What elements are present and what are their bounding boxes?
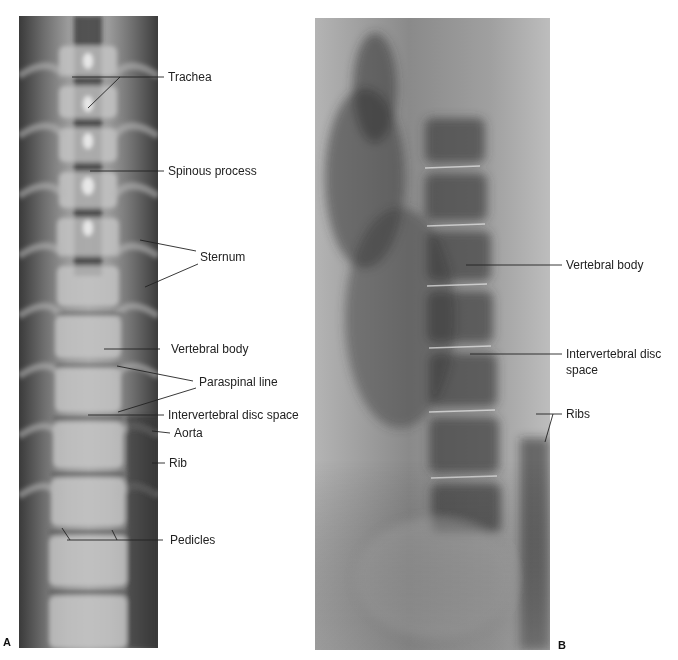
xray-lateral-image xyxy=(315,18,550,650)
label-pedicles: Pedicles xyxy=(170,534,215,547)
xray-frontal-image xyxy=(19,16,158,648)
panel-letter-a: A xyxy=(3,636,11,648)
xray-lateral-panel xyxy=(315,18,550,650)
label-trachea: Trachea xyxy=(168,71,212,84)
xray-frontal-panel xyxy=(19,16,158,648)
panel-letter-b: B xyxy=(558,639,566,651)
label-aorta: Aorta xyxy=(174,427,203,440)
label-vertebral-body-a: Vertebral body xyxy=(171,343,248,356)
label-rib: Rib xyxy=(169,457,187,470)
label-ribs: Ribs xyxy=(566,408,590,421)
label-spinous-process: Spinous process xyxy=(168,165,257,178)
label-intervertebral-disc-space-a: Intervertebral disc space xyxy=(168,409,299,422)
label-vertebral-body-b: Vertebral body xyxy=(566,259,643,272)
label-paraspinal-line: Paraspinal line xyxy=(199,376,278,389)
label-intervertebral-space-b: space xyxy=(566,364,598,377)
label-sternum: Sternum xyxy=(200,251,245,264)
label-intervertebral-disc-b: Intervertebral disc xyxy=(566,348,661,361)
